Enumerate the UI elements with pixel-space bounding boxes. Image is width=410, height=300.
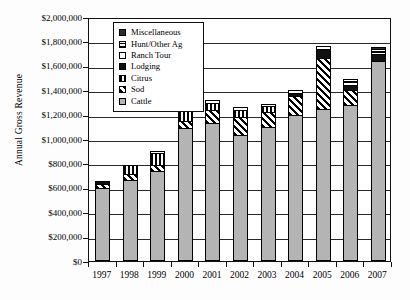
y-axis-tick-label: $0: [10, 258, 82, 267]
bar-segment-lodging: [371, 54, 386, 61]
bar-segment-cattle: [371, 61, 386, 261]
legend-swatch-hunt-icon: [119, 41, 126, 48]
bar-segment-cattle: [95, 188, 110, 261]
legend-label: Cattle: [131, 97, 152, 106]
bar-1997: [95, 181, 110, 261]
legend-item-sod: Sod: [119, 84, 199, 95]
x-axis-tick-mark: [253, 262, 254, 267]
bar-segment-sod: [178, 121, 193, 128]
legend-swatch-citrus-icon: [119, 75, 126, 82]
legend-label: Sod: [131, 85, 144, 94]
legend-swatch-sod-icon: [119, 86, 126, 93]
chart-legend: MiscellaneousHunt/Other AgRanch TourLodg…: [113, 22, 204, 112]
bar-segment-sod: [288, 96, 303, 115]
bar-segment-sod: [261, 112, 276, 127]
x-axis-tick-mark: [198, 262, 199, 267]
legend-item-cattle: Cattle: [119, 95, 199, 106]
bar-2004: [288, 90, 303, 261]
legend-item-hunt: Hunt/Other Ag: [119, 38, 199, 49]
legend-item-ranchtour: Ranch Tour: [119, 50, 199, 61]
stacked-bar-chart: Annual Gross Revenue $0$200,000$400,000$…: [0, 0, 410, 300]
legend-swatch-lodging-icon: [119, 63, 126, 70]
bar-2005: [316, 46, 331, 261]
bar-segment-lodging: [316, 49, 331, 58]
legend-label: Citrus: [131, 74, 152, 83]
y-axis-tick-label: $1,600,000: [10, 62, 82, 71]
bar-2000: [178, 102, 193, 261]
legend-swatch-misc-icon: [119, 29, 126, 36]
y-axis-tick-label: $800,000: [10, 160, 82, 169]
bar-1998: [123, 165, 138, 261]
bar-segment-sod: [233, 117, 248, 135]
bar-segment-cattle: [316, 109, 331, 261]
x-axis-tick-mark: [363, 262, 364, 267]
bar-1999: [150, 151, 165, 261]
y-axis-tick-label: $2,000,000: [10, 14, 82, 23]
bar-segment-citrus: [233, 110, 248, 117]
y-axis-tick-label: $1,200,000: [10, 111, 82, 120]
x-axis-tick-mark: [336, 262, 337, 267]
legend-swatch-ranchtour-icon: [119, 52, 126, 59]
legend-label: Lodging: [131, 62, 160, 71]
bar-segment-cattle: [150, 171, 165, 261]
legend-swatch-cattle-icon: [119, 98, 126, 105]
y-axis-tick-label: $400,000: [10, 209, 82, 218]
legend-label: Ranch Tour: [131, 51, 171, 60]
x-axis-tick-mark: [281, 262, 282, 267]
legend-label: Miscellaneous: [131, 28, 181, 37]
y-axis-tick-label: $1,400,000: [10, 87, 82, 96]
legend-label: Hunt/Other Ag: [131, 40, 182, 49]
bar-segment-citrus: [123, 165, 138, 174]
bar-segment-citrus: [205, 103, 220, 110]
y-axis-tick-label: $200,000: [10, 233, 82, 242]
bar-segment-cattle: [205, 123, 220, 261]
bar-2006: [343, 79, 358, 261]
y-axis-tick-label: $1,800,000: [10, 38, 82, 47]
bar-segment-cattle: [288, 115, 303, 261]
bar-segment-cattle: [233, 135, 248, 261]
x-axis-tick-mark: [391, 262, 392, 267]
y-axis-tick-label: $600,000: [10, 184, 82, 193]
bar-segment-sod: [123, 174, 138, 181]
legend-item-lodging: Lodging: [119, 61, 199, 72]
x-axis-tick-label: 2007: [357, 270, 397, 281]
bar-segment-cattle: [261, 127, 276, 261]
bar-segment-cattle: [178, 128, 193, 261]
bar-2002: [233, 107, 248, 261]
bar-segment-citrus: [150, 153, 165, 165]
x-axis-tick-mark: [308, 262, 309, 267]
bar-2003: [261, 104, 276, 261]
x-axis-tick-mark: [88, 262, 89, 267]
x-axis-tick-mark: [171, 262, 172, 267]
legend-item-citrus: Citrus: [119, 73, 199, 84]
y-axis-tick-label: $1,000,000: [10, 136, 82, 145]
x-axis-tick-mark: [116, 262, 117, 267]
legend-item-misc: Miscellaneous: [119, 27, 199, 38]
x-axis-tick-mark: [226, 262, 227, 267]
bar-segment-cattle: [343, 105, 358, 261]
bar-2007: [371, 47, 386, 261]
bar-segment-sod: [205, 110, 220, 122]
bar-2001: [205, 100, 220, 261]
bar-segment-cattle: [123, 180, 138, 261]
x-axis-tick-mark: [143, 262, 144, 267]
bar-segment-sod: [316, 58, 331, 109]
bar-segment-sod: [343, 90, 358, 105]
